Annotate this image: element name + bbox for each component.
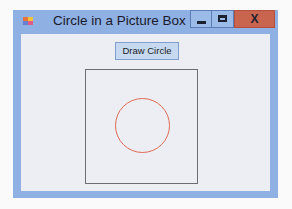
picture-box <box>85 69 198 184</box>
app-window: Circle in a Picture Box X Draw Circle <box>13 10 278 198</box>
close-icon: X <box>250 12 258 26</box>
form-client-area: Draw Circle <box>21 34 270 191</box>
minimize-button[interactable] <box>190 10 212 28</box>
window-title: Circle in a Picture Box <box>53 13 186 28</box>
close-button[interactable]: X <box>234 10 275 28</box>
app-form-icon[interactable] <box>23 17 33 26</box>
draw-circle-button[interactable]: Draw Circle <box>115 42 179 60</box>
maximize-button[interactable] <box>212 10 234 28</box>
title-bar[interactable]: Circle in a Picture Box X <box>13 10 278 34</box>
drawn-circle <box>115 98 170 153</box>
